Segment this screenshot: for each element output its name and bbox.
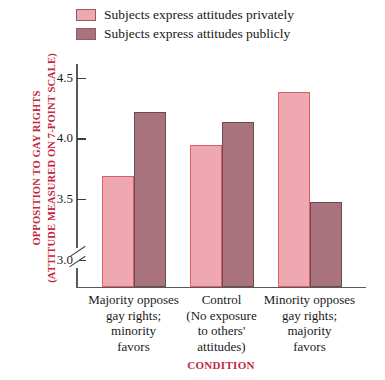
x-category-label-line: gay rights; bbox=[258, 308, 362, 324]
y-tick-label: 4.5 bbox=[57, 70, 73, 86]
x-category-label: Minority opposesgay rights;majorityfavor… bbox=[258, 292, 362, 354]
legend-item-private: Subjects express attitudes privately bbox=[76, 6, 376, 23]
legend-swatch-private bbox=[76, 9, 96, 21]
bar-private bbox=[278, 92, 310, 287]
y-tick-label: 4.0 bbox=[57, 130, 73, 146]
y-tick-label: 3.5 bbox=[57, 191, 73, 207]
chart-legend: Subjects express attitudes privately Sub… bbox=[76, 6, 376, 44]
legend-swatch-public bbox=[76, 28, 96, 40]
x-axis-categories: Majority opposesgay rights;minorityfavor… bbox=[76, 292, 366, 356]
x-category-label-line: Minority opposes bbox=[258, 292, 362, 308]
legend-item-public: Subjects express attitudes publicly bbox=[76, 25, 376, 42]
bar-public bbox=[310, 202, 342, 287]
bar-group-container bbox=[78, 64, 366, 287]
bar-public bbox=[222, 122, 254, 287]
legend-label-public: Subjects express attitudes publicly bbox=[104, 26, 290, 41]
x-category-label-line: majority bbox=[258, 323, 362, 339]
bar-private bbox=[102, 176, 134, 288]
y-axis-title: OPPOSITION TO GAY RIGHTS (ATTITUDE MEASU… bbox=[0, 48, 56, 288]
bar-private bbox=[190, 145, 222, 287]
x-axis-title: CONDITION bbox=[76, 359, 366, 371]
plot-area: 4.54.03.53.0 bbox=[76, 64, 366, 288]
legend-label-private: Subjects express attitudes privately bbox=[104, 7, 294, 22]
x-category-label-line: favors bbox=[258, 339, 362, 355]
bar-public bbox=[134, 112, 166, 287]
